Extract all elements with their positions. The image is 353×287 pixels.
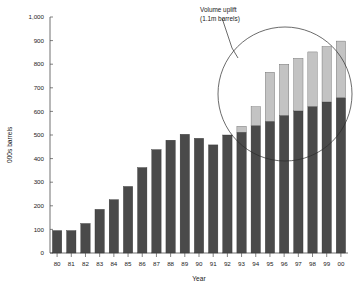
x-tick-label: 94 [252,260,259,267]
y-tick-label: 1,000 [29,13,45,20]
x-tick-label: 81 [68,260,75,267]
bar-chart-svg: 000s barrels 1,000 900 800 700 600 500 4… [0,0,353,287]
x-tick-label: 98 [309,260,316,267]
y-axis-tick-labels: 1,000 900 800 700 600 500 400 300 200 10… [29,13,45,256]
bar-uplift-98 [308,52,317,107]
bar-base-93 [237,132,246,253]
x-tick-label: 88 [167,260,174,267]
x-tick-label: 84 [110,260,117,267]
bar-uplift-97 [294,58,303,111]
y-tick-label: 700 [34,84,45,91]
y-tick-label: 900 [34,37,45,44]
y-tick-label: 400 [34,155,45,162]
bar-base-89 [180,134,189,253]
x-tick-label: 96 [281,260,288,267]
y-axis-title: 000s barrels [6,126,13,163]
bar-base-97 [294,111,303,253]
x-tick-label: 92 [224,260,231,267]
x-tick-label: 89 [181,260,188,267]
bar-base-88 [166,140,175,253]
bar-base-94 [251,126,260,253]
bar-base-98 [308,106,317,253]
bar-base-92 [223,135,232,253]
bar-base-84 [109,200,118,253]
callout-leader-line [222,18,238,58]
bar-uplift-96 [279,64,288,115]
bars-layer [52,41,345,253]
bar-base-86 [138,168,147,253]
chart-container: 000s barrels 1,000 900 800 700 600 500 4… [0,0,353,287]
y-tick-label: 500 [34,131,45,138]
y-tick-label: 100 [34,226,45,233]
x-tick-label: 80 [54,260,61,267]
x-tick-label: 91 [210,260,217,267]
bar-base-91 [209,145,218,253]
volume-uplift-label-line1: Volume uplift [200,6,237,14]
y-tick-label: 200 [34,202,45,209]
bar-base-85 [123,186,132,253]
bar-base-96 [279,115,288,253]
bar-base-83 [95,209,104,253]
bar-base-87 [152,150,161,253]
y-tick-label: 300 [34,178,45,185]
bar-uplift-93 [237,126,246,132]
x-axis-layer: 8081828384858687888990919293949596979899… [54,253,345,267]
bar-base-95 [265,121,274,253]
x-tick-label: 86 [139,260,146,267]
bar-base-00 [336,98,345,253]
x-tick-label: 83 [96,260,103,267]
y-axis-ticks [50,17,53,253]
x-tick-label: 82 [82,260,89,267]
bar-base-81 [67,231,76,253]
x-tick-label: 93 [238,260,245,267]
bar-uplift-95 [265,72,274,121]
x-tick-label: 87 [153,260,160,267]
bar-uplift-00 [336,41,345,98]
bar-uplift-94 [251,107,260,126]
y-tick-label: 0 [41,249,45,256]
x-tick-label: 00 [337,260,344,267]
y-tick-label: 600 [34,108,45,115]
x-tick-label: 95 [267,260,274,267]
x-tick-label: 90 [196,260,203,267]
bar-base-80 [52,231,61,253]
volume-uplift-label-line2: (1.1m barrels) [200,15,240,23]
x-axis-title: Year [192,275,206,282]
bar-base-82 [81,224,90,254]
bar-uplift-99 [322,47,331,102]
y-tick-label: 800 [34,60,45,67]
x-tick-label: 85 [125,260,132,267]
bar-base-90 [194,138,203,253]
x-tick-label: 97 [295,260,302,267]
x-tick-label: 99 [323,260,330,267]
bar-base-99 [322,102,331,253]
